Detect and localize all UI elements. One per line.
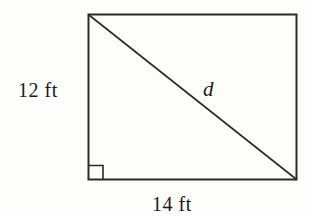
right-angle-marker-icon (89, 166, 103, 180)
width-label: 14 ft (152, 194, 192, 214)
height-label: 12 ft (18, 80, 58, 100)
diagonal-label: d (203, 79, 214, 100)
diagonal-line (89, 15, 296, 179)
geometry-figure: 12 ft 14 ft d (0, 0, 312, 217)
diagram-canvas (0, 0, 312, 217)
